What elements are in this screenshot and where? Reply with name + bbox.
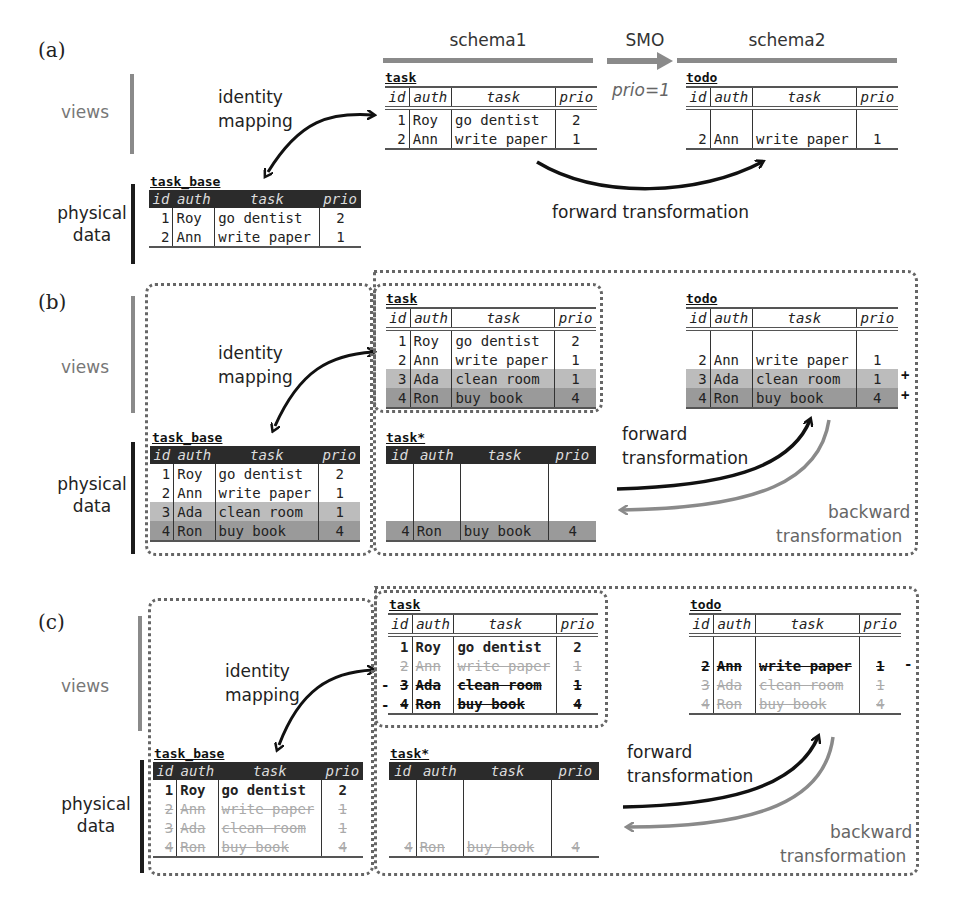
table-cell: go dentist <box>218 780 322 799</box>
table-header-row: id auth task prio <box>149 190 361 208</box>
todo-view-table-c: id auth task prio 2Annwrite paper1 3Adac… <box>689 613 901 715</box>
col-id: id <box>388 614 412 635</box>
col-id: id <box>686 87 710 108</box>
table-cell: 2 <box>153 799 177 818</box>
table-name-todo-b: todo <box>686 291 717 306</box>
table-row-inserted: 4Ronbuy book4 <box>150 521 360 541</box>
forward-transformation-arrow-a <box>537 162 762 189</box>
table-row: 2Annwrite paper1 <box>385 129 597 149</box>
table-cell: buy book <box>460 521 548 541</box>
table-row <box>386 464 596 483</box>
table-cell: write paper <box>215 227 320 247</box>
physical-label-b: physical data <box>54 473 130 517</box>
table-cell <box>416 818 463 837</box>
table-name-todo-a: todo <box>686 70 717 85</box>
table-cell: 1 <box>856 350 898 369</box>
table-cell: 2 <box>386 350 410 369</box>
identity-line1: identity <box>225 659 300 683</box>
table-cell: 1 <box>555 350 596 369</box>
col-task: task <box>756 614 860 635</box>
table-cell <box>416 799 463 818</box>
col-id: id <box>389 762 416 780</box>
table-cell: Roy <box>174 464 215 483</box>
table-cell: go dentist <box>454 635 557 656</box>
table-row: 1Roygo dentist2 <box>149 208 361 227</box>
physical-label-a: physical data <box>54 202 130 246</box>
identity-line2: mapping <box>218 365 293 389</box>
col-id: id <box>386 308 410 329</box>
col-auth: auth <box>409 87 451 108</box>
table-row <box>386 502 596 521</box>
col-task: task <box>753 308 857 329</box>
col-prio: prio <box>322 762 363 780</box>
table-cell: Ada <box>710 369 752 388</box>
table-cell: Ron <box>416 837 463 857</box>
identity-mapping-label-a: identity mapping <box>218 85 293 133</box>
table-cell <box>413 483 460 502</box>
table-row <box>386 483 596 502</box>
table-cell: Ann <box>177 799 218 818</box>
task-star-table-b: id auth task prio 4Ronbuy book4 <box>386 446 596 542</box>
table-cell: 4 <box>386 388 410 408</box>
table-cell: Ada <box>174 502 215 521</box>
table-cell: write paper <box>452 129 556 149</box>
table-cell: clean room <box>218 818 322 837</box>
col-auth: auth <box>416 762 463 780</box>
col-auth: auth <box>410 308 452 329</box>
table-name-task-c: task <box>389 597 420 612</box>
table-name-task-base-b: task_base <box>152 430 222 445</box>
table-row-removed: 2Annwrite paper1 <box>153 799 363 818</box>
table-cell: 3 <box>689 675 713 694</box>
table-row-removed: 3Adaclean room1 <box>153 818 363 837</box>
todo-view-table-a: id auth task prio 2Annwrite paper1 <box>686 86 898 150</box>
table-cell: 4 <box>856 388 898 408</box>
table-row <box>686 108 898 129</box>
table-row-deleted: 3Adaclean room1 <box>388 675 598 694</box>
table-name-task-b: task <box>386 291 417 306</box>
col-prio: prio <box>319 190 361 208</box>
table-cell <box>856 108 898 129</box>
table-name-task-a: task <box>385 70 416 85</box>
forward-line2: transformation <box>627 764 753 788</box>
table-cell: Roy <box>410 329 452 350</box>
table-cell <box>463 799 551 818</box>
table-cell: 3 <box>388 675 412 694</box>
views-label-a: views <box>55 101 115 123</box>
table-cell <box>552 780 599 799</box>
table-row-removed: 3Adaclean room1 <box>689 675 901 694</box>
table-row: 2Annwrite paper1 <box>386 350 596 369</box>
table-cell: Ann <box>174 483 215 502</box>
table-cell: Ann <box>410 350 452 369</box>
table-cell: 1 <box>856 369 898 388</box>
table-cell: Ann <box>710 350 752 369</box>
table-cell: 4 <box>552 837 599 857</box>
panel-label-b: (b) <box>38 290 66 314</box>
task-view-table-a: id auth task prio 1Roygo dentist2 2Annwr… <box>385 86 597 150</box>
table-cell: buy book <box>454 694 557 714</box>
table-row: 1Roygo dentist2 <box>385 108 597 129</box>
table-cell: go dentist <box>215 464 319 483</box>
table-cell <box>686 329 710 350</box>
panel-label-a: (a) <box>38 38 66 62</box>
table-cell: Roy <box>409 108 451 129</box>
table-cell: 3 <box>386 369 410 388</box>
table-cell: 2 <box>385 129 409 149</box>
table-cell: buy book <box>452 388 555 408</box>
table-row-removed: 4Ronbuy book4 <box>389 837 599 857</box>
table-cell: Ann <box>713 656 755 675</box>
table-header-row: id auth task prio <box>386 308 596 329</box>
table-cell: Ron <box>713 694 755 714</box>
table-cell: clean room <box>753 369 857 388</box>
table-row-inserted: 3Adaclean room1 <box>386 369 596 388</box>
table-cell: 2 <box>322 780 363 799</box>
physical-bar-c <box>140 760 144 873</box>
col-prio: prio <box>552 762 599 780</box>
table-cell: 4 <box>555 388 596 408</box>
col-task: task <box>454 614 557 635</box>
col-id: id <box>386 446 413 464</box>
table-cell: clean room <box>454 675 557 694</box>
col-task: task <box>452 87 556 108</box>
table-cell: buy book <box>215 521 319 541</box>
table-cell: 4 <box>386 521 413 541</box>
table-cell: 4 <box>388 694 412 714</box>
